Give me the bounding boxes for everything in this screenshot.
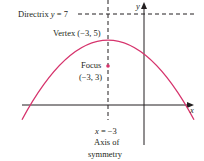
x-axis-label: x bbox=[189, 105, 194, 115]
axis-of-symmetry-equation: x = −3 bbox=[94, 126, 117, 136]
axis-of-symmetry-label-line2: symmetry bbox=[88, 149, 123, 159]
parabola-diagram: Directrix y = 7 Vertex (−3, 5) Focus (−3… bbox=[0, 0, 204, 161]
focus-label-line2: (−3, 3) bbox=[79, 72, 102, 82]
focus-label-line1: Focus bbox=[81, 60, 101, 70]
y-axis-label: y bbox=[135, 1, 140, 11]
y-axis-arrow-icon bbox=[141, 2, 147, 9]
axis-of-symmetry-label-line1: Axis of bbox=[94, 137, 119, 147]
vertex-label: Vertex (−3, 5) bbox=[53, 28, 101, 38]
focus-point bbox=[106, 64, 110, 68]
directrix-label: Directrix y = 7 bbox=[18, 9, 68, 19]
